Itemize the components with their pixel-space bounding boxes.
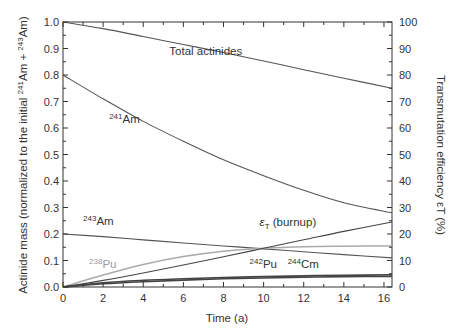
y-tick-label: 0.2 <box>44 228 59 240</box>
plot-frame <box>63 22 392 287</box>
series-annotation: 242Pu <box>250 257 277 270</box>
series-annotation: 241Am <box>109 112 140 125</box>
x-tick-label: 4 <box>140 292 146 304</box>
y-tick-label: 1.0 <box>44 16 59 28</box>
y2-tick-label: 40 <box>399 175 411 187</box>
x-tick-label: 2 <box>100 292 106 304</box>
y-tick-label: 0.7 <box>44 96 59 108</box>
y2-tick-label: 20 <box>399 228 411 240</box>
y-tick-label: 0.3 <box>44 202 59 214</box>
y2-axis-label: Transmutation efficiency εT (%) <box>435 75 447 235</box>
y2-tick-label: 100 <box>399 16 417 28</box>
series-lines <box>63 22 392 287</box>
y-tick-label: 0.1 <box>44 255 59 267</box>
y2-tick-label: 80 <box>399 69 411 81</box>
series-annotation: 238Pu <box>89 257 116 270</box>
x-tick-label: 10 <box>257 292 269 304</box>
y2-tick-label: 70 <box>399 96 411 108</box>
y-tick-label: 0.8 <box>44 69 59 81</box>
series-annotation: 244Cm <box>288 257 319 270</box>
x-axis-label: Time (a) <box>206 312 249 324</box>
y-tick-label: 0.5 <box>44 149 59 161</box>
y2-tick-label: 0 <box>399 281 405 293</box>
y-tick-label: 0.9 <box>44 43 59 55</box>
x-tick-label: 8 <box>220 292 226 304</box>
series-annotation: Total actinides <box>169 45 242 57</box>
series-line-241am <box>63 75 392 213</box>
x-tick-label: 6 <box>180 292 186 304</box>
chart: 02468101214160.00.10.20.30.40.50.60.70.8… <box>0 0 455 334</box>
y2-tick-label: 10 <box>399 255 411 267</box>
x-tick-label: 12 <box>298 292 310 304</box>
x-tick-label: 14 <box>338 292 350 304</box>
x-tick-label: 16 <box>378 292 390 304</box>
y2-tick-label: 30 <box>399 202 411 214</box>
y2-tick-label: 90 <box>399 43 411 55</box>
y-axis-label: Actinide mass (normalized to the initial… <box>16 16 29 294</box>
y2-tick-label: 60 <box>399 122 411 134</box>
y-tick-label: 0.4 <box>44 175 59 187</box>
y2-tick-label: 50 <box>399 149 411 161</box>
annotations: Total actinides241Am243Am238Pu242Pu244Cm… <box>83 45 319 270</box>
series-annotation: εT (burnup) <box>260 216 317 231</box>
y-tick-label: 0.0 <box>44 281 59 293</box>
x-tick-label: 0 <box>60 292 66 304</box>
series-annotation: 243Am <box>83 214 114 227</box>
y-tick-label: 0.6 <box>44 122 59 134</box>
